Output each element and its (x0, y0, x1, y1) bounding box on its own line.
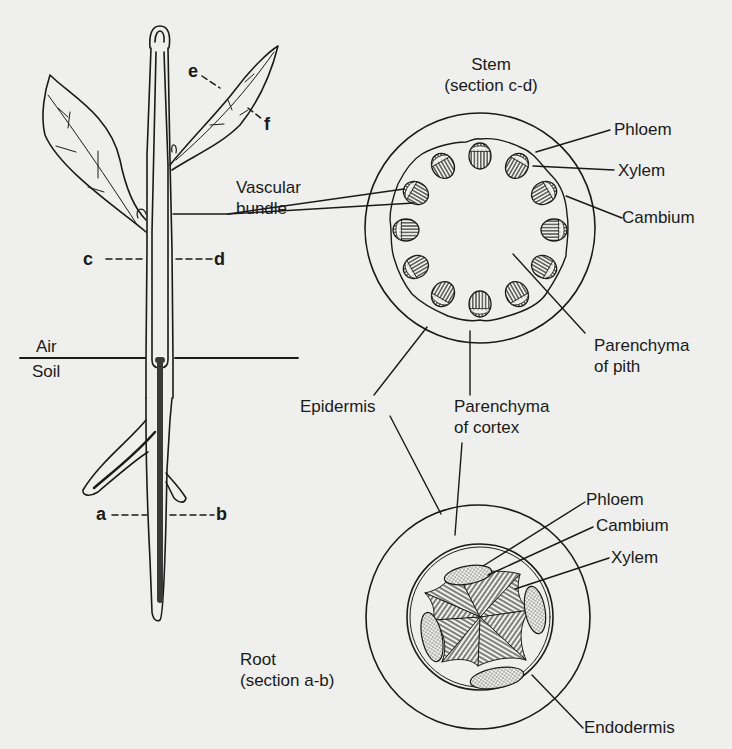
root-section-title: Root (240, 650, 276, 670)
endodermis-label: Endodermis (584, 718, 675, 738)
marker-b: b (216, 505, 227, 524)
root-xylem-label: Xylem (611, 548, 658, 568)
stem-bundle (427, 277, 459, 311)
leaf-left (43, 75, 146, 232)
stem-phloem-label: Phloem (614, 120, 672, 140)
epidermis-label: Epidermis (300, 397, 376, 417)
stem-xylem-label: Xylem (618, 161, 665, 181)
marker-a: a (96, 505, 106, 524)
air-label: Air (36, 337, 57, 357)
stem-bundle (527, 177, 561, 209)
vascular-bundle-label-line1: Vascular (236, 178, 301, 198)
stem-bundle (399, 251, 433, 283)
marker-c: c (83, 250, 93, 269)
stem-vascular-bundles (393, 143, 567, 317)
stem-section-subtitle: (section c-d) (416, 76, 566, 96)
stem-bundle (541, 219, 567, 241)
root-cross-section (366, 505, 590, 729)
stem-bundle (469, 143, 491, 169)
soil-label: Soil (32, 362, 60, 382)
stem-section-title: Stem (416, 55, 566, 75)
stem-cambium-label: Cambium (622, 208, 695, 228)
stem-bundle (427, 149, 459, 183)
marker-f: f (264, 115, 270, 134)
cortex-label-line2: of cortex (454, 418, 519, 438)
stem-bundle (393, 219, 419, 241)
section-markers (106, 76, 262, 515)
root-phloem-label: Phloem (586, 490, 644, 510)
apical-bud (150, 26, 170, 48)
root-section-subtitle: (section a-b) (240, 671, 334, 691)
marker-d: d (214, 250, 225, 269)
pith-label-line2: of pith (594, 357, 640, 377)
marker-e: e (188, 62, 198, 81)
vascular-bundle-label-line2: bundle (236, 199, 287, 219)
stem-outline (146, 48, 151, 398)
stem-bundle (469, 291, 491, 317)
stem-bundle (501, 277, 533, 311)
root-cambium-label: Cambium (596, 516, 669, 536)
pith-label-line1: Parenchyma (594, 336, 689, 356)
stem-bundle (501, 149, 533, 183)
cortex-label-line1: Parenchyma (454, 397, 549, 417)
